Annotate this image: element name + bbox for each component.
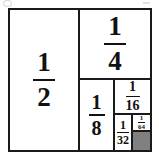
fraction-one-half: 1 2 bbox=[33, 49, 55, 111]
region-shaded-remainder bbox=[133, 132, 150, 150]
fraction-bar bbox=[33, 79, 55, 81]
scan-artifact-icon bbox=[143, 2, 150, 4]
fraction-numerator: 1 bbox=[140, 115, 144, 122]
fraction-one-thirtysecond: 1 32 bbox=[117, 119, 129, 146]
scan-artifact-icon bbox=[3, 0, 12, 7]
fraction-denominator: 2 bbox=[37, 83, 51, 111]
fraction-numerator: 1 bbox=[120, 119, 126, 131]
outer-square-border: 1 2 1 4 1 8 1 16 bbox=[8, 8, 152, 152]
geometric-series-diagram: 1 2 1 4 1 8 1 16 bbox=[0, 0, 159, 160]
fraction-bar bbox=[89, 114, 105, 116]
fraction-numerator: 1 bbox=[108, 13, 122, 41]
fraction-denominator: 8 bbox=[92, 118, 102, 138]
region-one-sixteenth: 1 16 bbox=[115, 80, 150, 115]
fraction-one-eighth: 1 8 bbox=[89, 92, 105, 138]
region-one-thirtysecond: 1 32 bbox=[115, 115, 133, 150]
fraction-denominator: 4 bbox=[108, 47, 122, 75]
fraction-numerator: 1 bbox=[129, 80, 136, 94]
fraction-one-sixteenth: 1 16 bbox=[126, 80, 140, 113]
fraction-denominator: 16 bbox=[126, 99, 140, 113]
region-one-sixtyfourth: 1 64 bbox=[133, 115, 150, 132]
fraction-one-quarter: 1 4 bbox=[104, 13, 126, 75]
fraction-denominator: 64 bbox=[138, 124, 145, 131]
region-one-quarter: 1 4 bbox=[80, 10, 150, 80]
region-one-eighth: 1 8 bbox=[80, 80, 115, 150]
fraction-denominator: 32 bbox=[117, 134, 129, 146]
fraction-numerator: 1 bbox=[37, 49, 51, 77]
region-one-half: 1 2 bbox=[10, 10, 80, 150]
fraction-numerator: 1 bbox=[92, 92, 102, 112]
fraction-one-sixtyfourth: 1 64 bbox=[138, 115, 145, 131]
fraction-bar bbox=[104, 43, 126, 45]
